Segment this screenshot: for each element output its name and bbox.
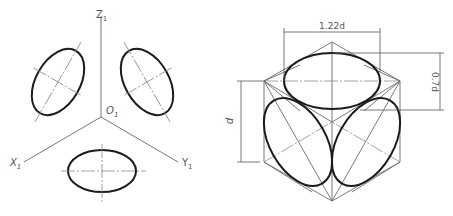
origin-label: O1 xyxy=(106,105,118,119)
left-plane-ellipse xyxy=(11,28,105,136)
y-axis-line xyxy=(101,117,178,162)
right-figure: 1.22d 0.7d d xyxy=(224,21,444,201)
minor-axis-label: 0.7d xyxy=(430,72,440,92)
isometric-ellipse-diagram: Z1 X1 Y1 O1 xyxy=(0,0,453,216)
right-plane-ellipse xyxy=(100,28,194,136)
bottom-plane-ellipse xyxy=(61,144,146,203)
y-axis-label: Y1 xyxy=(181,157,193,171)
major-axis-label: 1.22d xyxy=(319,21,345,31)
left-figure: Z1 X1 Y1 O1 xyxy=(9,9,194,203)
diameter-dimension: d xyxy=(224,81,264,162)
x-axis-label: X1 xyxy=(9,157,21,171)
z-axis-label: Z1 xyxy=(96,9,107,23)
diameter-label: d xyxy=(224,117,235,124)
x-axis-line xyxy=(24,117,101,162)
